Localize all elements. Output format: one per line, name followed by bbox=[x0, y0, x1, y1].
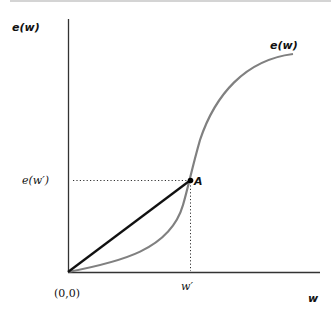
point-a-marker bbox=[188, 178, 194, 184]
curve-label: e(w) bbox=[270, 39, 298, 52]
x-tick-label: w′ bbox=[181, 280, 193, 293]
point-a-label: A bbox=[193, 175, 203, 188]
origin-label: (0,0) bbox=[54, 287, 80, 300]
y-axis-label: e(w) bbox=[12, 21, 40, 34]
diagram-canvas: e(w) e(w) e(w′) A (0,0) w′ w bbox=[0, 0, 331, 313]
y-tick-label: e(w′) bbox=[22, 174, 49, 187]
x-axis-label: w bbox=[308, 292, 319, 305]
e-w-curve bbox=[68, 54, 293, 272]
